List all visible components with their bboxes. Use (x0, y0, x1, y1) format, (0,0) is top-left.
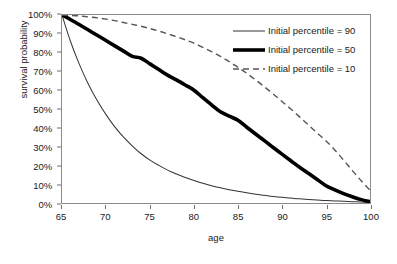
x-axis: 65707580859095100 (61, 205, 371, 225)
y-tick-label: 30% (33, 142, 52, 153)
x-tick-mark (105, 205, 106, 209)
legend-item[interactable]: Initial percentile = 10 (232, 59, 378, 78)
y-tick-label: 50% (33, 104, 52, 115)
x-tick-mark (194, 205, 195, 209)
y-tick-label: 100% (28, 9, 52, 20)
x-tick-label: 80 (189, 211, 200, 222)
y-tick-label: 80% (33, 47, 52, 58)
y-tick-label: 0% (38, 199, 52, 210)
chart-legend: Initial percentile = 90Initial percentil… (232, 21, 378, 78)
legend-label: Initial percentile = 50 (266, 44, 355, 55)
y-tick-label: 20% (33, 161, 52, 172)
legend-line-swatch (232, 44, 266, 56)
x-tick-label: 100 (363, 211, 379, 222)
x-tick-mark (238, 205, 239, 209)
y-tick-label: 90% (33, 28, 52, 39)
x-tick-label: 75 (144, 211, 155, 222)
x-tick-mark (282, 205, 283, 209)
x-tick-label: 70 (100, 211, 111, 222)
legend-label: Initial percentile = 10 (266, 63, 355, 74)
x-tick-mark (61, 205, 62, 209)
x-tick-label: 90 (277, 211, 288, 222)
survival-probability-chart: 0%10%20%30%40%50%60%70%80%90%100% surviv… (0, 0, 397, 264)
legend-item[interactable]: Initial percentile = 90 (232, 21, 378, 40)
x-tick-label: 95 (321, 211, 332, 222)
x-axis-title: age (61, 232, 371, 243)
y-tick-label: 40% (33, 123, 52, 134)
y-tick-label: 10% (33, 180, 52, 191)
x-tick-label: 85 (233, 211, 244, 222)
x-tick-mark (327, 205, 328, 209)
y-tick-label: 60% (33, 85, 52, 96)
y-tick-label: 70% (33, 66, 52, 77)
x-tick-mark (150, 205, 151, 209)
legend-line-swatch (232, 63, 266, 75)
x-tick-label: 65 (56, 211, 67, 222)
y-axis: 0%10%20%30%40%50%60%70%80%90%100% (0, 14, 57, 204)
y-axis-title: survival probability (18, 0, 29, 135)
legend-label: Initial percentile = 90 (266, 25, 355, 36)
legend-line-swatch (232, 25, 266, 37)
x-tick-mark (371, 205, 372, 209)
legend-item[interactable]: Initial percentile = 50 (232, 40, 378, 59)
